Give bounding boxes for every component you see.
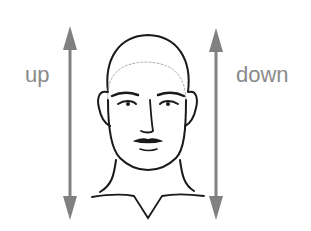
- left-double-arrow-icon: [63, 26, 77, 220]
- right-double-arrow-icon: [209, 28, 223, 220]
- face-drawing: [92, 35, 204, 218]
- face-diagram: [0, 0, 311, 231]
